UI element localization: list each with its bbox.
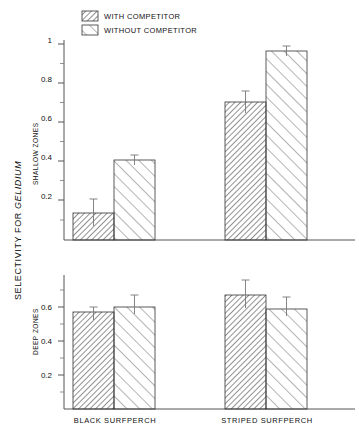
- bar-shallow-black-without-competitor: [114, 160, 155, 240]
- y-tick-label-bottom-0-2: 0.2: [24, 371, 52, 380]
- panel-label-deep-zones: DEEP ZONES: [32, 308, 39, 355]
- chart-panel-deep-zones: [49, 268, 359, 413]
- y-tick-label-bottom-0-4: 0.4: [24, 337, 52, 346]
- y-tick-label-top-0-4: 0.4: [24, 153, 52, 162]
- y-axis-title-main: SELECTIVITY FOR: [13, 209, 23, 300]
- figure-container: WITH COMPETITOR WITHOUT COMPETITOR SELEC…: [0, 0, 359, 448]
- x-category-label-striped-surfperch: STRIPED SURFPERCH: [202, 416, 332, 425]
- chart-panel-shallow-zones: [49, 33, 359, 248]
- legend-label-with-competitor: WITH COMPETITOR: [104, 12, 180, 21]
- bar-shallow-striped-with-competitor: [225, 102, 266, 240]
- y-axis-minor-ticks-top: [60, 64, 64, 221]
- y-tick-label-bottom-0-6: 0.6: [24, 303, 52, 312]
- bar-deep-black-with-competitor: [73, 312, 114, 409]
- y-tick-label-top-0-8: 0.8: [24, 75, 52, 84]
- y-tick-label-top-1: 1: [30, 36, 52, 45]
- y-axis-title: SELECTIVITY FOR GELIDIUM: [13, 161, 23, 300]
- y-tick-label-top-0-2: 0.2: [24, 192, 52, 201]
- bar-deep-striped-without-competitor: [266, 309, 307, 409]
- bar-deep-striped-with-competitor: [225, 295, 266, 409]
- y-tick-label-top-0-6: 0.6: [24, 114, 52, 123]
- y-axis-major-ticks-top: [58, 44, 64, 200]
- y-axis-title-italic: GELIDIUM: [13, 161, 23, 209]
- x-category-label-black-surfperch: BLACK SURFPERCH: [50, 416, 180, 425]
- bar-deep-black-without-competitor: [114, 307, 155, 409]
- legend-swatch-with-competitor: [82, 11, 98, 21]
- y-axis-major-ticks-bottom: [58, 307, 64, 375]
- bar-shallow-striped-without-competitor: [266, 51, 307, 240]
